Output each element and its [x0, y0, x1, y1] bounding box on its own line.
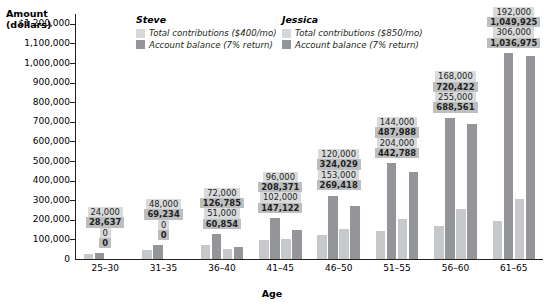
bar-jessica-contributions	[515, 199, 525, 259]
bar-jessica-contributions	[456, 209, 466, 259]
bar-steve-contributions	[259, 240, 269, 259]
bar-steve-balance	[328, 196, 338, 260]
value-label-jessica-balance: 0	[99, 238, 111, 248]
y-axis-tick-label: 100,000	[2, 235, 70, 244]
value-label-steve-contributions: 192,000	[493, 7, 534, 17]
value-label-steve-contributions: 48,000	[146, 199, 181, 209]
y-axis-tick-label: 800,000	[2, 98, 70, 107]
y-axis-labels: $1,200,0001,100,0001,000,000900,000800,0…	[0, 0, 70, 307]
y-axis-tick-label: 1,100,000	[2, 39, 70, 48]
value-label-steve-balance: 208,371	[258, 182, 302, 192]
value-label-steve-balance: 126,785	[200, 198, 244, 208]
value-label-steve-contributions: 96,000	[263, 172, 298, 182]
retirement-savings-bar-chart: Amount (dollars) $1,200,0001,100,0001,00…	[0, 0, 544, 307]
x-axis-tick-label: 46–50	[310, 263, 368, 273]
bar-steve-contributions	[84, 254, 94, 259]
x-axis-tick-label: 51–55	[368, 263, 426, 273]
bar-group-value-labels: 48,00069,23400	[134, 199, 192, 241]
value-label-steve-balance: 720,422	[433, 82, 477, 92]
y-axis-tick-label: 700,000	[2, 117, 70, 126]
value-label-jessica-balance: 60,854	[203, 219, 241, 229]
bar-steve-balance	[212, 234, 222, 259]
bar-steve-balance	[387, 163, 397, 259]
x-axis-tick-label: 31–35	[134, 263, 192, 273]
bar-group-value-labels: 72,000126,78551,00060,854	[193, 188, 251, 230]
bar-group	[426, 14, 484, 259]
x-axis-tick-label: 41–45	[251, 263, 309, 273]
bar-jessica-balance	[350, 206, 360, 259]
bar-group-value-labels: 168,000720,422255,000688,561	[426, 71, 484, 113]
y-axis-tick-label: 900,000	[2, 78, 70, 87]
x-axis-title: Age	[0, 288, 544, 299]
bar-steve-balance	[445, 118, 455, 259]
bar-steve-balance	[153, 245, 163, 259]
y-axis-tick-label: 0	[2, 255, 70, 264]
value-label-steve-balance: 1,049,925	[487, 17, 540, 27]
bar-steve-contributions	[201, 245, 211, 259]
value-label-steve-contributions: 168,000	[435, 71, 476, 81]
bar-steve-balance	[504, 53, 514, 259]
bar-jessica-balance	[467, 124, 477, 259]
bar-group-value-labels: 120,000324,029153,000269,418	[310, 149, 368, 191]
value-label-jessica-balance: 147,122	[258, 203, 302, 213]
y-axis-tick-label: 500,000	[2, 157, 70, 166]
value-label-jessica-balance: 269,418	[317, 180, 361, 190]
value-label-jessica-contributions: 204,000	[377, 138, 418, 148]
value-label-steve-contributions: 120,000	[318, 149, 359, 159]
bar-group-value-labels: 144,000487,988204,000442,788	[368, 117, 426, 159]
bar-group-value-labels: 192,0001,049,925306,0001,036,975	[485, 7, 543, 49]
bar-jessica-contributions	[223, 249, 233, 259]
bar-jessica-contributions	[339, 229, 349, 259]
value-label-jessica-contributions: 0	[100, 228, 111, 238]
value-label-steve-contributions: 144,000	[377, 117, 418, 127]
x-axis-tick-label: 56–60	[426, 263, 484, 273]
value-label-jessica-contributions: 102,000	[260, 192, 301, 202]
value-label-jessica-contributions: 153,000	[318, 170, 359, 180]
bar-steve-contributions	[142, 250, 152, 259]
value-label-jessica-balance: 442,788	[375, 148, 419, 158]
bar-jessica-balance	[409, 172, 419, 259]
value-label-steve-contributions: 72,000	[204, 188, 239, 198]
value-label-jessica-contributions: 51,000	[204, 208, 239, 218]
y-axis-tick-label: $1,200,000	[2, 19, 70, 28]
value-label-jessica-balance: 1,036,975	[487, 38, 540, 48]
value-label-steve-balance: 69,234	[144, 209, 182, 219]
bar-group	[310, 14, 368, 259]
bar-steve-contributions	[376, 231, 386, 259]
y-axis-tick-label: 300,000	[2, 196, 70, 205]
bar-steve-contributions	[434, 226, 444, 259]
bar-steve-balance	[270, 218, 280, 259]
bar-group	[251, 14, 309, 259]
bar-group-value-labels: 96,000208,371102,000147,122	[251, 172, 309, 214]
x-axis-tick-label: 36–40	[193, 263, 251, 273]
value-label-steve-contributions: 24,000	[88, 207, 123, 217]
value-label-jessica-contributions: 0	[158, 220, 169, 230]
y-axis-tick-label: 400,000	[2, 176, 70, 185]
y-axis-tick-label: 200,000	[2, 215, 70, 224]
x-axis-tick-label: 61–65	[485, 263, 543, 273]
bar-jessica-balance	[292, 230, 302, 259]
value-label-steve-balance: 487,988	[375, 127, 419, 137]
value-label-jessica-contributions: 306,000	[493, 27, 534, 37]
y-axis-tick-label: 1,000,000	[2, 59, 70, 68]
bar-jessica-balance	[234, 247, 244, 259]
x-axis-tick-label: 25–30	[76, 263, 134, 273]
value-label-jessica-contributions: 255,000	[435, 92, 476, 102]
bar-group	[485, 14, 543, 259]
bar-jessica-contributions	[398, 219, 408, 259]
bar-steve-contributions	[493, 221, 503, 259]
bar-jessica-balance	[526, 56, 536, 259]
y-axis-tick-label: 600,000	[2, 137, 70, 146]
bar-steve-balance	[95, 253, 105, 259]
x-axis-line	[75, 259, 543, 260]
bar-steve-contributions	[317, 235, 327, 259]
value-label-jessica-balance: 0	[158, 230, 170, 240]
bar-group-value-labels: 24,00028,63700	[76, 207, 134, 249]
value-label-steve-balance: 324,029	[317, 159, 361, 169]
value-label-steve-balance: 28,637	[86, 217, 124, 227]
bar-jessica-contributions	[281, 239, 291, 259]
value-label-jessica-balance: 688,561	[433, 102, 477, 112]
